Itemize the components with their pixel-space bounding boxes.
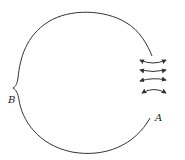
- arrow-row-4: [142, 90, 166, 94]
- field-arrows: [140, 60, 166, 93]
- arrow-row-1: [140, 60, 166, 63]
- loop-wire: [13, 12, 152, 153]
- arrow-row-2: [140, 70, 166, 72]
- label-a: A: [154, 112, 162, 123]
- arrow-row-3: [140, 79, 166, 81]
- loop-diagram: B A: [0, 0, 185, 160]
- label-b: B: [7, 94, 15, 105]
